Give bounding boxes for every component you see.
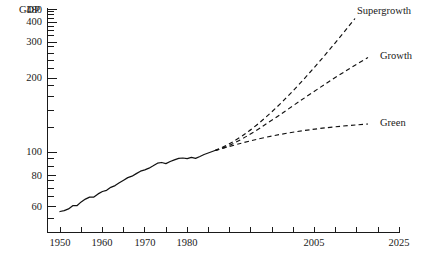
x-tick-label-1970: 1970 xyxy=(123,238,167,249)
gdp-projection-chart: GDP 480 400 300 200 100 80 60 1950 1960 … xyxy=(0,0,421,262)
y-tick-label-480: 480 xyxy=(0,5,42,16)
y-tick-label-100: 100 xyxy=(0,147,42,158)
x-tick-label-2025: 2025 xyxy=(377,238,421,249)
series-label-supergrowth: Supergrowth xyxy=(357,6,411,17)
y-tick-label-400: 400 xyxy=(0,17,42,28)
y-tick-label-300: 300 xyxy=(0,37,42,48)
series-history xyxy=(60,151,215,212)
x-tick-label-1950: 1950 xyxy=(38,238,82,249)
y-tick-label-80: 80 xyxy=(0,171,42,182)
x-tick-label-2005: 2005 xyxy=(292,238,336,249)
series-growth xyxy=(215,58,368,151)
series-green xyxy=(215,124,368,151)
y-axis-ticks xyxy=(48,10,57,218)
x-axis-ticks xyxy=(60,227,399,233)
series-label-growth: Growth xyxy=(380,51,412,62)
x-tick-label-1960: 1960 xyxy=(80,238,124,249)
chart-plot-area xyxy=(0,0,421,262)
series-label-green: Green xyxy=(380,118,406,129)
y-tick-label-60: 60 xyxy=(0,202,42,213)
y-tick-label-200: 200 xyxy=(0,73,42,84)
series-supergrowth xyxy=(215,19,355,151)
x-tick-label-1980: 1980 xyxy=(165,238,209,249)
